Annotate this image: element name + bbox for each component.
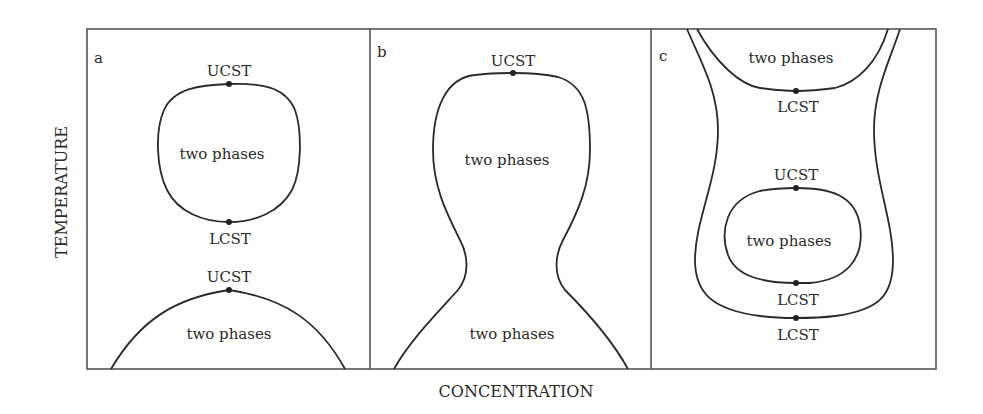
lcst-label: LCST — [777, 326, 819, 344]
lcst-point — [793, 280, 799, 286]
x-axis-label: CONCENTRATION — [439, 382, 594, 401]
lcst-point — [793, 315, 799, 321]
lcst-point — [793, 88, 799, 94]
phase-diagram-figure: TEMPERATURE CONCENTRATION a UCST two pha… — [0, 0, 983, 414]
region-label: two phases — [469, 325, 554, 343]
ucst-point — [793, 185, 799, 191]
ucst-label: UCST — [491, 52, 535, 70]
region-label: two phases — [748, 49, 833, 67]
panel-a: a UCST two phases LCST UCST two phases — [94, 49, 345, 369]
region-label: two phases — [746, 232, 831, 250]
region-label: two phases — [179, 145, 264, 163]
ucst-label: UCST — [207, 268, 251, 286]
panel-label-b: b — [377, 43, 387, 61]
y-axis-label: TEMPERATURE — [52, 126, 71, 258]
ucst-point — [510, 70, 516, 76]
panel-b: b UCST two phases two phases — [377, 43, 628, 369]
panel-c: c two phases LCST LCST UCST two phases L… — [659, 29, 900, 344]
panel-label-a: a — [94, 49, 103, 67]
lcst-label: LCST — [777, 291, 819, 309]
ucst-point — [226, 287, 232, 293]
lcst-point — [226, 219, 232, 225]
region-label: two phases — [186, 325, 271, 343]
region-label: two phases — [464, 151, 549, 169]
lcst-label: LCST — [777, 98, 819, 116]
ucst-point — [226, 81, 232, 87]
ucst-label: UCST — [774, 166, 818, 184]
panel-label-c: c — [659, 47, 667, 65]
lcst-label: LCST — [209, 230, 251, 248]
ucst-label: UCST — [207, 62, 251, 80]
